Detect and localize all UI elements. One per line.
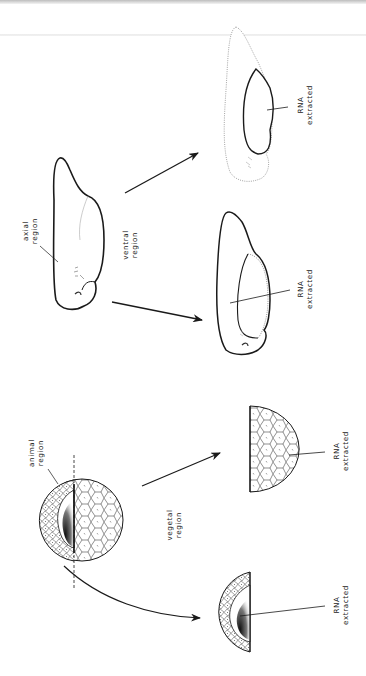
label-line: region — [130, 223, 139, 267]
axial-fragment-rna-label: RNA extracted — [296, 80, 314, 130]
label-line: RNA — [296, 264, 305, 314]
label-line: RNA — [296, 80, 305, 130]
ventral-fragment — [217, 212, 290, 354]
blastula-whole — [39, 479, 123, 561]
animal-region-label: animal region — [27, 431, 45, 475]
arrow-to-vegetal-half — [142, 453, 220, 486]
label-line: region — [36, 431, 45, 475]
vegetal-half-rna-label: RNA extracted — [332, 426, 350, 476]
animal-region-leader — [48, 469, 58, 484]
ventral-region-label: ventral region — [121, 223, 139, 267]
label-line: RNA — [332, 426, 341, 476]
arrow-to-axial-fragment — [125, 153, 198, 193]
vegetal-half — [250, 406, 325, 492]
label-line: extracted — [341, 580, 350, 630]
label-line: extracted — [305, 80, 314, 130]
animal-half-leader — [240, 606, 325, 616]
arrow-to-ventral-fragment — [112, 302, 202, 320]
label-line: extracted — [305, 264, 314, 314]
label-line: ventral — [121, 223, 130, 267]
tailbud-embryo-whole — [54, 158, 105, 310]
animal-half — [219, 572, 325, 652]
label-line: RNA — [332, 580, 341, 630]
arrow-to-animal-half — [64, 566, 200, 618]
label-line: animal — [27, 431, 36, 475]
label-line: extracted — [341, 426, 350, 476]
label-line: axial — [21, 209, 30, 253]
axial-fragment — [224, 27, 288, 181]
label-line: vegetal — [165, 503, 174, 547]
label-line: region — [174, 503, 183, 547]
axial-region-label: axial region — [21, 209, 39, 253]
ventral-fragment-rna-label: RNA extracted — [296, 264, 314, 314]
label-line: region — [30, 209, 39, 253]
vegetal-region-label: vegetal region — [165, 503, 183, 547]
animal-half-rna-label: RNA extracted — [332, 580, 350, 630]
